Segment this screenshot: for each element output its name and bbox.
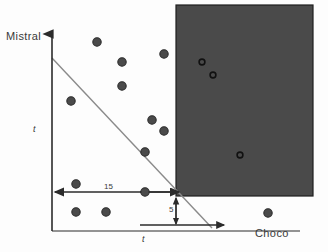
filled-data-point [102,208,110,216]
filled-data-point [148,116,156,124]
horizontal-measure-label: 15 [104,182,113,191]
plot-svg [0,0,328,252]
x-axis-title: Choco [255,227,289,239]
filled-data-point [67,97,75,105]
filled-data-point [72,180,80,188]
filled-data-point [93,38,101,46]
y-axis-title: Mistral [6,30,41,42]
filled-data-point [72,208,80,216]
annotation-arrows-group [55,192,224,225]
filled-data-point [118,82,126,90]
scatter-plot-figure: Mistral Choco t t 15 5 [0,0,328,252]
vertical-measure-label: 5 [169,205,173,214]
filled-data-point [264,209,272,217]
highlighted-region-group [176,5,313,196]
filled-data-point [141,148,149,156]
filled-data-point [160,127,168,135]
filled-data-point [141,188,149,196]
filled-data-point [118,58,126,66]
y-axis-tick-label: t [33,124,36,134]
filled-data-point [160,50,168,58]
x-axis-tick-label: t [142,234,145,244]
highlighted-quadrant-rect [176,5,313,196]
